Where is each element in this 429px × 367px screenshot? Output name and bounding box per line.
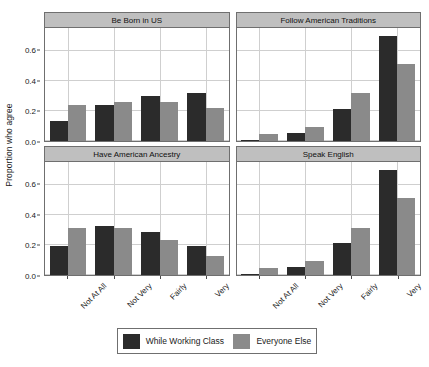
bar [351,93,369,141]
x-axis-tick-label: Not Very [125,281,153,309]
y-axis-tick-label: 0.6 [25,180,36,189]
x-axis-tick-mark [114,276,115,279]
bar [259,268,277,275]
y-axis-tick-label: 0.2 [25,107,36,116]
x-axis-tick-mark [305,276,306,279]
x-axis-tick-label: Very [214,281,232,299]
x-axis-tick-label: Very [405,281,423,299]
legend-swatch [123,334,140,349]
bar-group [50,162,87,275]
bar-group [379,28,416,141]
facet-panel: Be Born in US [44,12,230,142]
facet-title: Speak English [236,146,422,161]
bar [68,228,86,275]
bar-series-container [45,162,229,275]
bar [206,256,224,275]
y-axis-tick-mark [37,142,40,143]
x-axis-tick-mark [259,276,260,279]
legend-label: Everyone Else [256,336,311,346]
bar-group [141,162,178,275]
bar [379,36,397,141]
bar [351,228,369,275]
x-axis-tick-label: Fairly [168,281,188,301]
bar [287,267,305,275]
bar-series-container [45,28,229,141]
bar [206,108,224,141]
x-axis-tick-mark [67,276,68,279]
x-axis-tick-mark [160,276,161,279]
chart-root: Proportion who agree Be Born in USFollow… [0,0,429,367]
y-axis-ticks: 0.00.20.40.6 [0,27,40,142]
x-axis-tick-mark [351,276,352,279]
x-axis-tick-label: Not At All [79,281,108,310]
x-axis-ticks: Not At AllNot VeryFairlyVery [44,276,230,320]
y-axis-tick-mark [37,245,40,246]
bar [50,121,68,141]
bar-group [187,162,224,275]
bar [305,127,323,141]
bar [397,198,415,275]
bar [114,102,132,141]
bar [397,64,415,141]
legend-label: While Working Class [146,336,224,346]
bar [333,243,351,275]
legend-item: Everyone Else [233,334,311,349]
bar-group [50,28,87,141]
y-axis-tick-label: 0.0 [25,272,36,281]
facet-panel: Follow American Traditions [236,12,422,142]
facet-title: Be Born in US [44,12,230,27]
bar [141,232,159,275]
bar-group [241,28,278,141]
facet-panel: Have American Ancestry [44,146,230,276]
plot-area [44,161,230,276]
bar-group [241,162,278,275]
bar [187,93,205,141]
bar [68,105,86,141]
y-axis-ticks: 0.00.20.40.6 [0,161,40,276]
x-axis-tick-mark [206,276,207,279]
bar [333,109,351,141]
bar-series-container [237,28,421,141]
bar [187,246,205,275]
x-axis-tick-label: Fairly [360,281,380,301]
bar-group [95,162,132,275]
y-axis-tick-label: 0.4 [25,76,36,85]
y-axis-tick-mark [37,111,40,112]
bar-group [287,162,324,275]
facet-panel: Speak English [236,146,422,276]
y-axis-tick-label: 0.0 [25,138,36,147]
bar [305,261,323,275]
plot-area [236,27,422,142]
bar-group [333,162,370,275]
facet-title: Follow American Traditions [236,12,422,27]
x-axis-tick-label: Not At All [271,281,300,310]
x-axis-tick-label: Not Very [317,281,345,309]
bar [95,105,113,141]
facet-grid: Be Born in USFollow American TraditionsH… [44,12,421,276]
y-axis-tick-label: 0.6 [25,46,36,55]
chart-legend: While Working ClassEveryone Else [117,328,317,354]
bar [241,274,259,276]
legend-item: While Working Class [123,334,224,349]
bar [141,96,159,141]
bar-group [95,28,132,141]
bar-group [187,28,224,141]
y-axis-tick-label: 0.4 [25,210,36,219]
facet-title: Have American Ancestry [44,146,230,161]
bar [241,140,259,142]
legend-swatch [233,334,250,349]
plot-area [44,27,230,142]
y-axis-tick-mark [37,184,40,185]
bar [259,134,277,141]
bar-group [141,28,178,141]
plot-area [236,161,422,276]
bar [287,133,305,141]
y-axis-tick-label: 0.2 [25,241,36,250]
bar [95,226,113,275]
bar-group [333,28,370,141]
y-axis-tick-mark [37,214,40,215]
bar [160,102,178,141]
bar [50,246,68,275]
bar [114,228,132,275]
bar-group [379,162,416,275]
